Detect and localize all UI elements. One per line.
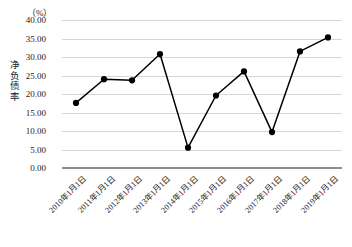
y-axis-tick-label: 40.00 bbox=[8, 15, 46, 25]
data-point bbox=[269, 129, 275, 135]
series-line bbox=[76, 37, 328, 147]
data-point bbox=[101, 76, 107, 82]
y-axis-tick-label: 35.00 bbox=[8, 34, 46, 44]
y-axis-tick-label: 15.00 bbox=[8, 108, 46, 118]
data-point bbox=[129, 77, 135, 83]
y-axis-tick-label: 10.00 bbox=[8, 126, 46, 136]
data-point bbox=[241, 68, 247, 74]
series-net-debt-ratio bbox=[62, 20, 342, 168]
data-point bbox=[73, 100, 79, 106]
data-point bbox=[297, 48, 303, 54]
data-point bbox=[185, 145, 191, 151]
y-axis-tick-label: 5.00 bbox=[8, 145, 46, 155]
data-point bbox=[157, 51, 163, 57]
y-axis-tick-label: 25.00 bbox=[8, 71, 46, 81]
data-point bbox=[213, 92, 219, 98]
plot-area: 0.005.0010.0015.0020.0025.0030.0035.0040… bbox=[62, 20, 342, 168]
y-axis-tick-label: 20.00 bbox=[8, 89, 46, 99]
net-debt-ratio-line-chart: （%） 净负债率 0.005.0010.0015.0020.0025.0030.… bbox=[0, 0, 352, 247]
y-axis-tick-label: 0.00 bbox=[8, 163, 46, 173]
data-point bbox=[325, 34, 331, 40]
y-axis-tick-label: 30.00 bbox=[8, 52, 46, 62]
